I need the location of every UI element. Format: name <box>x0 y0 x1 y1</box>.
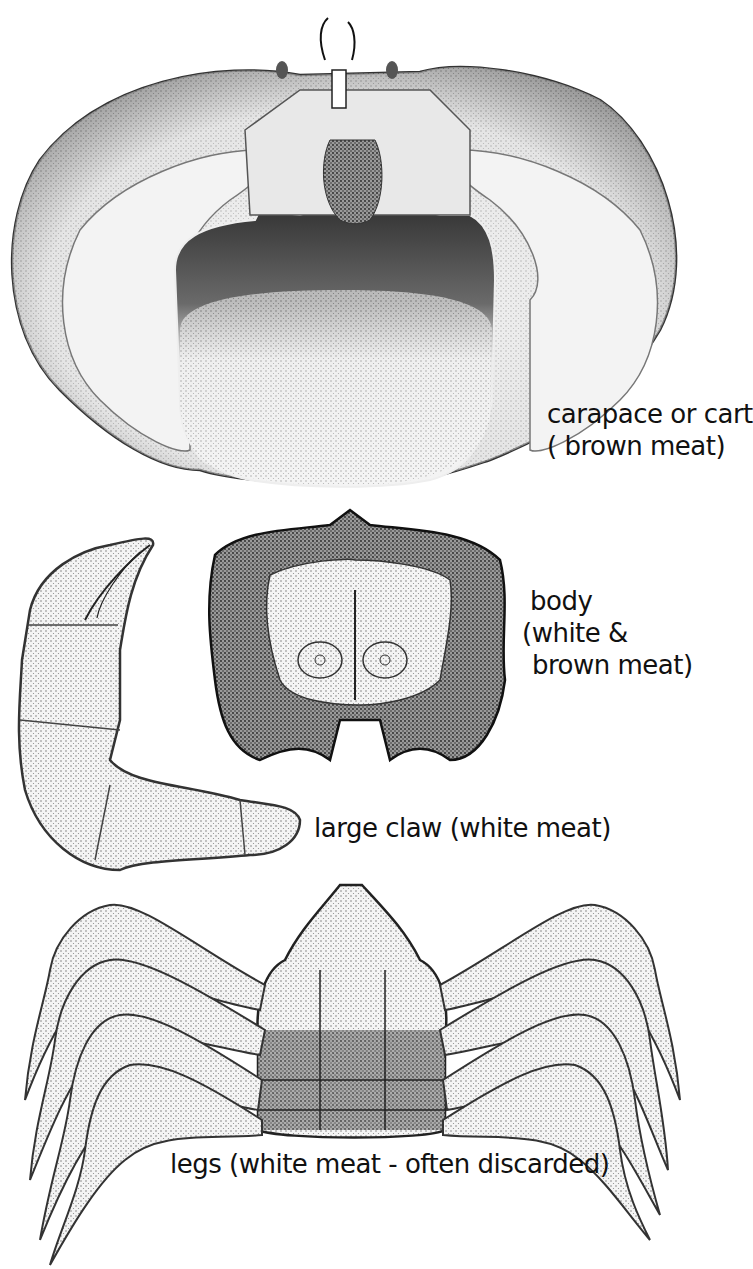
body-drawing <box>209 510 505 760</box>
label-large-claw: large claw (white meat) <box>314 812 611 844</box>
label-body-line-3: brown meat) <box>522 649 693 681</box>
legs-drawing <box>25 885 680 1265</box>
label-carapace-line-2: ( brown meat) <box>547 430 753 462</box>
label-carapace-line-1: carapace or cart <box>547 398 753 430</box>
label-carapace: carapace or cart ( brown meat) <box>547 398 753 462</box>
label-claw-line-1: large claw (white meat) <box>314 812 611 844</box>
label-body-line-1: body <box>522 585 693 617</box>
label-body-line-2: (white & <box>522 617 693 649</box>
label-body: body (white & brown meat) <box>522 585 693 681</box>
label-legs-line-1: legs (white meat - often discarded) <box>170 1148 609 1180</box>
label-legs: legs (white meat - often discarded) <box>170 1148 609 1180</box>
